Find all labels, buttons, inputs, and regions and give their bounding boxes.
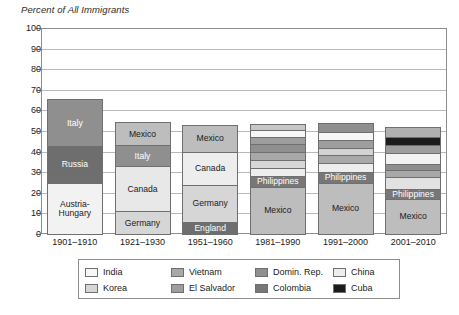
bar-segment[interactable]: Philippines <box>318 172 374 183</box>
bar-segment[interactable] <box>318 155 374 164</box>
bar-segment-label: Russia <box>62 160 88 169</box>
bar-segment[interactable] <box>385 137 441 146</box>
bar-segment[interactable] <box>250 152 306 161</box>
legend-swatch <box>255 284 268 293</box>
chart-container: Percent of All Immigrants 01020304050607… <box>0 0 459 315</box>
legend-item[interactable]: China <box>333 264 423 280</box>
stacked-bar[interactable]: GermanyCanadaItalyMexico <box>115 122 171 234</box>
legend-label: Colombia <box>273 283 311 293</box>
bar-segment[interactable] <box>385 164 441 171</box>
bar-segment[interactable]: Mexico <box>385 199 441 235</box>
bar-segment[interactable]: Mexico <box>115 122 171 147</box>
legend-label: El Salvador <box>189 283 235 293</box>
legend-label: Vietnam <box>189 267 222 277</box>
bar-segment-label: England <box>194 224 226 233</box>
x-tick-label: 1901–1910 <box>52 237 97 247</box>
legend-swatch <box>333 284 346 293</box>
bar-segment[interactable] <box>250 160 306 169</box>
bar-segment[interactable] <box>318 132 374 141</box>
legend-swatch <box>333 268 346 277</box>
legend-label: Domin. Rep. <box>273 267 323 277</box>
bar-segment-label: Mexico <box>197 134 224 143</box>
legend-item[interactable]: India <box>85 264 171 280</box>
bar-segment[interactable] <box>318 123 374 133</box>
y-tick-mark <box>36 234 41 235</box>
legend-swatch <box>255 268 268 277</box>
x-tick-label: 1951–1960 <box>188 237 233 247</box>
bar-segment[interactable] <box>250 130 306 138</box>
bar-segment[interactable] <box>385 170 441 178</box>
bar-segment[interactable]: Canada <box>115 166 171 212</box>
x-tick-label: 1991–2000 <box>323 237 368 247</box>
bar-segment-label: Austria- Hungary <box>59 200 91 218</box>
bar-segment[interactable] <box>385 145 441 153</box>
bar-segment[interactable] <box>250 137 306 145</box>
bar-segment[interactable]: Russia <box>47 146 103 183</box>
legend-item[interactable]: El Salvador <box>171 280 255 296</box>
x-tick-label: 2001–2010 <box>391 237 436 247</box>
x-tick-label: 1921–1930 <box>120 237 165 247</box>
bar-segment-label: Philippines <box>325 173 367 182</box>
legend-label: Cuba <box>351 283 373 293</box>
bars-layer: Austria- HungaryRussiaItalyGermanyCanada… <box>41 28 447 234</box>
stacked-bar[interactable]: MexicoPhilippines <box>250 124 306 234</box>
bar-segment[interactable]: Italy <box>115 145 171 167</box>
bar-segment[interactable] <box>250 168 306 177</box>
legend-item[interactable]: Cuba <box>333 280 423 296</box>
legend-swatch <box>171 268 184 277</box>
bar-segment[interactable]: Austria- Hungary <box>47 183 103 236</box>
bar-segment[interactable]: Mexico <box>250 187 306 235</box>
y-axis: 0102030405060708090100 <box>0 0 41 315</box>
legend-item[interactable]: Domin. Rep. <box>255 264 333 280</box>
legend: IndiaVietnamDomin. Rep.ChinaKoreaEl Salv… <box>78 259 400 299</box>
legend-label: China <box>351 267 375 277</box>
bar-segment[interactable] <box>250 144 306 152</box>
legend-item[interactable]: Vietnam <box>171 264 255 280</box>
bar-segment[interactable]: Philippines <box>250 176 306 187</box>
bar-segment-label: Germany <box>125 219 160 228</box>
bar-segment-label: Mexico <box>332 204 359 213</box>
bar-segment[interactable] <box>250 124 306 131</box>
stacked-bar[interactable]: Austria- HungaryRussiaItaly <box>47 99 103 234</box>
bar-segment[interactable]: Canada <box>182 152 238 186</box>
legend-swatch <box>85 268 98 277</box>
bar-segment[interactable]: Philippines <box>385 189 441 200</box>
bar-segment[interactable] <box>318 148 374 156</box>
legend-item[interactable]: Colombia <box>255 280 333 296</box>
bar-segment-label: Philippines <box>257 177 299 186</box>
bar-segment-label: Canada <box>195 164 225 173</box>
bar-segment[interactable]: Germany <box>182 185 238 223</box>
stacked-bar[interactable]: EnglandGermanyCanadaMexico <box>182 125 238 234</box>
legend-label: India <box>103 267 123 277</box>
legend-swatch <box>85 284 98 293</box>
bar-segment[interactable] <box>385 127 441 138</box>
stacked-bar[interactable]: MexicoPhilippines <box>318 123 374 234</box>
legend-item[interactable]: Korea <box>85 280 171 296</box>
bar-segment-label: Italy <box>135 152 151 161</box>
bar-segment[interactable] <box>385 177 441 189</box>
legend-label: Korea <box>103 283 127 293</box>
bar-segment-label: Philippines <box>392 190 434 199</box>
bar-segment-label: Mexico <box>129 130 156 139</box>
bar-segment-label: Mexico <box>264 206 291 215</box>
legend-swatch <box>171 284 184 293</box>
stacked-bar[interactable]: MexicoPhilippines <box>385 127 441 234</box>
bar-segment[interactable]: Italy <box>47 99 103 147</box>
bar-segment-label: Mexico <box>400 212 427 221</box>
bar-segment[interactable]: Mexico <box>182 125 238 153</box>
bar-segment[interactable]: Germany <box>115 211 171 235</box>
bar-segment[interactable] <box>318 140 374 148</box>
bar-segment[interactable] <box>385 153 441 165</box>
bar-segment[interactable] <box>318 163 374 173</box>
bar-segment[interactable]: England <box>182 222 238 235</box>
bar-segment-label: Germany <box>192 199 227 208</box>
x-tick-label: 1981–1990 <box>255 237 300 247</box>
bar-segment[interactable]: Mexico <box>318 183 374 236</box>
bar-segment-label: Italy <box>67 119 83 128</box>
bar-segment-label: Canada <box>127 185 157 194</box>
